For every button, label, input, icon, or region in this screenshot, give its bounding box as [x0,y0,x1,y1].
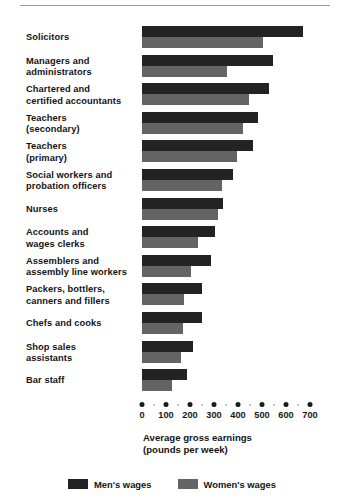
legend-item: Men's wages [68,479,151,490]
category-label-line: Shop sales [26,341,138,352]
chart-row: Assemblers andassembly line workers [0,254,344,280]
chart-row: Teachers(secondary) [0,111,344,137]
bar-men [142,140,253,151]
category-label: Accounts andwages clerks [26,227,138,250]
chart-row: Chartered andcertified accountants [0,82,344,108]
chart-row: Accounts andwages clerks [0,225,344,251]
x-axis-tick-dot [260,402,265,407]
category-label: Packers, bottlers,canners and fillers [26,284,138,307]
category-label-line: Social workers and [26,170,138,181]
category-label: Managers andadministrators [26,55,138,78]
x-axis-tick-dot [212,402,217,407]
x-axis-tick-label: 100 [158,410,173,420]
bar-women [142,323,183,334]
bar-women [142,294,184,305]
legend-label: Women's wages [204,479,276,490]
chart-row: Managers andadministrators [0,54,344,80]
earnings-bar-chart-figure: SolicitorsManagers andadministratorsChar… [0,0,344,500]
category-label-line: Chartered and [26,84,138,95]
bar-women [142,180,222,191]
category-label-line: Managers and [26,55,138,66]
bar-women [142,209,218,220]
x-axis-tick-label: 700 [302,410,317,420]
chart-row: Teachers(primary) [0,139,344,165]
legend-swatch-women [178,479,198,489]
x-axis-tick-label: 200 [182,410,197,420]
bar-women [142,94,249,105]
category-label-line: wages clerks [26,238,138,249]
x-axis-tick-dot [140,402,145,407]
legend-label: Men's wages [94,479,151,490]
x-axis-minor-dot [273,404,275,406]
bar-men [142,26,303,37]
x-axis-minor-dot [225,404,227,406]
bar-women [142,123,243,134]
category-label: Chefs and cooks [26,318,138,329]
top-divider-rule [20,5,330,6]
bar-men [142,198,223,209]
bar-men [142,55,273,66]
chart-row: Nurses [0,197,344,223]
bar-women [142,37,263,48]
category-label-line: probation officers [26,181,138,192]
category-label-line: Teachers [26,112,138,123]
bar-women [142,380,172,391]
chart-row: Bar staff [0,368,344,394]
category-label: Nurses [26,204,138,215]
x-axis-tick-dot [308,402,313,407]
category-label: Social workers andprobation officers [26,170,138,193]
x-axis-tick-label: 400 [230,410,245,420]
category-label: Teachers(secondary) [26,112,138,135]
category-label-line: assembly line workers [26,267,138,278]
legend-item: Women's wages [178,479,276,490]
category-label-line: (secondary) [26,124,138,135]
x-axis-title: Average gross earnings (pounds per week) [143,432,343,456]
x-axis-tick-label: 300 [206,410,221,420]
x-axis-minor-dot [249,404,251,406]
bar-men [142,283,202,294]
chart-row: Solicitors [0,25,344,51]
legend-swatch-men [68,479,88,489]
x-axis-tick-dot [164,402,169,407]
x-axis-title-line1: Average gross earnings [143,432,343,444]
bar-men [142,112,258,123]
category-label-line: administrators [26,67,138,78]
x-axis: 0100200300400500600700 [0,402,344,432]
category-label-line: Solicitors [26,32,138,43]
bar-women [142,151,237,162]
x-axis-minor-dot [297,404,299,406]
category-label-line: canners and fillers [26,295,138,306]
bar-women [142,352,181,363]
bar-women [142,266,191,277]
chart-row: Packers, bottlers,canners and fillers [0,282,344,308]
category-label-line: Assemblers and [26,255,138,266]
x-axis-tick-dot [236,402,241,407]
category-label-line: assistants [26,353,138,364]
category-label-line: Chefs and cooks [26,318,138,329]
x-axis-tick-dot [284,402,289,407]
bar-women [142,237,198,248]
bar-men [142,255,211,266]
bar-men [142,226,215,237]
x-axis-minor-dot [153,404,155,406]
category-label-line: Packers, bottlers, [26,284,138,295]
category-label: Shop salesassistants [26,341,138,364]
x-axis-tick-label: 600 [278,410,293,420]
chart-row: Chefs and cooks [0,311,344,337]
chart-row: Social workers andprobation officers [0,168,344,194]
bar-men [142,341,193,352]
x-axis-tick-label: 500 [254,410,269,420]
chart-plot-area: SolicitorsManagers andadministratorsChar… [0,25,344,397]
x-axis-tick-label: 0 [139,410,144,420]
bar-men [142,169,233,180]
chart-legend: Men's wagesWomen's wages [0,476,344,492]
category-label-line: Teachers [26,141,138,152]
category-label: Bar staff [26,375,138,386]
category-label: Chartered andcertified accountants [26,84,138,107]
bar-women [142,66,227,77]
bar-men [142,83,269,94]
category-label: Assemblers andassembly line workers [26,255,138,278]
category-label-line: certified accountants [26,95,138,106]
bar-men [142,369,187,380]
x-axis-tick-dot [188,402,193,407]
